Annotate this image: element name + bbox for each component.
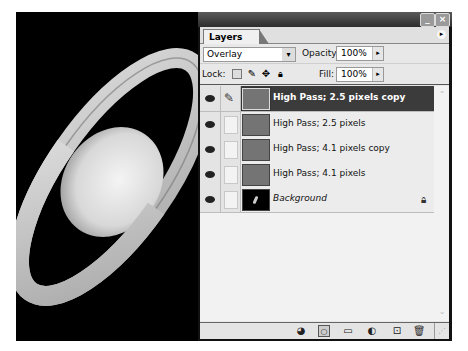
tab-row: Layers ▸	[200, 27, 449, 44]
layer-link-cell[interactable]	[221, 137, 241, 162]
adjustment-layer-icon[interactable]: ◐	[366, 325, 378, 337]
layer-row[interactable]: High Pass; 4.1 pixels	[200, 162, 434, 188]
lock-label: Lock:	[202, 69, 226, 79]
add-mask-icon[interactable]: ○	[318, 325, 330, 337]
layer-thumbnail[interactable]	[242, 88, 270, 110]
new-layer-icon[interactable]: ⊡	[391, 325, 403, 337]
lock-all-icon[interactable]: 🔒︎	[275, 69, 285, 79]
layer-name[interactable]: High Pass; 4.1 pixels	[273, 168, 366, 178]
opacity-value: 100%	[341, 48, 367, 58]
panel-menu-icon[interactable]: ▸	[437, 30, 446, 39]
lock-move-icon[interactable]: ✥	[261, 69, 271, 79]
minimize-button[interactable]: _	[420, 13, 435, 27]
layer-thumbnail[interactable]	[242, 164, 270, 186]
layer-row[interactable]: ✎ High Pass; 2.5 pixels copy	[200, 86, 434, 112]
layer-row[interactable]: High Pass; 4.1 pixels copy	[200, 137, 434, 163]
layer-name[interactable]: High Pass; 2.5 pixels copy	[273, 92, 405, 102]
layer-row[interactable]: Background 🔒︎	[200, 187, 434, 213]
visibility-eye-icon[interactable]	[200, 112, 221, 137]
lock-fill-row: Lock: ✎ ✥ 🔒︎ Fill: 100% ▸	[200, 64, 449, 85]
trash-icon[interactable]: 🗑︎	[413, 325, 425, 337]
visibility-eye-icon[interactable]	[200, 187, 221, 212]
blend-mode-select[interactable]: Overlay ▾	[203, 47, 296, 62]
layer-style-icon[interactable]: ◕	[295, 325, 307, 337]
layers-list: ✎ High Pass; 2.5 pixels copy High Pass; …	[200, 86, 449, 321]
chevron-down-icon[interactable]: ▾	[282, 48, 295, 61]
opacity-label: Opacity:	[302, 48, 339, 58]
tab-layers[interactable]: Layers	[203, 29, 260, 44]
new-group-folder-icon[interactable]: ▭	[342, 325, 354, 337]
layer-row[interactable]: High Pass; 2.5 pixels	[200, 112, 434, 138]
opacity-field[interactable]: 100% ▸	[336, 46, 384, 61]
layer-name[interactable]: Background	[273, 193, 327, 203]
layer-link-cell[interactable]	[221, 112, 241, 137]
lock-transparent-icon[interactable]	[232, 69, 242, 79]
visibility-eye-icon[interactable]	[200, 162, 221, 187]
layer-link-cell[interactable]	[221, 162, 241, 187]
blend-mode-value: Overlay	[207, 49, 242, 59]
blend-opacity-row: Overlay ▾ Opacity: 100% ▸	[200, 44, 449, 64]
panel-body: Layers ▸ Overlay ▾ Opacity: 100% ▸ Lock:…	[200, 27, 449, 338]
resize-grip-icon[interactable]: ⋰	[434, 323, 449, 339]
scroll-up-icon[interactable]: ⌃	[437, 90, 447, 100]
layer-thumbnail[interactable]	[242, 189, 270, 211]
layer-lock-icon: 🔒︎	[421, 194, 426, 206]
opacity-slider-arrow-icon[interactable]: ▸	[372, 47, 383, 60]
layer-name[interactable]: High Pass; 2.5 pixels	[273, 118, 366, 128]
lock-brush-icon[interactable]: ✎	[247, 69, 257, 79]
layers-scrollbar[interactable]: ⌃ ⌄	[435, 86, 449, 321]
layers-panel: _ × Layers ▸ Overlay ▾ Opacity: 100% ▸ L…	[198, 12, 452, 341]
layer-link-cell[interactable]: ✎	[221, 86, 241, 111]
scroll-down-icon[interactable]: ⌄	[437, 307, 447, 317]
layer-name[interactable]: High Pass; 4.1 pixels copy	[273, 143, 390, 153]
layer-thumbnail[interactable]	[242, 139, 270, 161]
fill-value: 100%	[341, 69, 367, 79]
close-button[interactable]: ×	[435, 13, 450, 27]
document-canvas[interactable]	[16, 12, 200, 341]
layer-thumbnail[interactable]	[242, 114, 270, 136]
visibility-eye-icon[interactable]	[200, 137, 221, 162]
layer-link-cell[interactable]	[221, 187, 241, 212]
fill-label: Fill:	[319, 69, 334, 79]
paintbrush-icon: ✎	[224, 91, 234, 105]
fill-field[interactable]: 100% ▸	[336, 67, 384, 82]
fill-slider-arrow-icon[interactable]: ▸	[372, 68, 383, 81]
visibility-eye-icon[interactable]	[200, 86, 221, 111]
layers-bottom-toolbar: ◕ ○ ▭ ◐ ⊡ 🗑︎ ⋰	[200, 322, 449, 339]
panel-titlebar[interactable]: _ ×	[198, 12, 452, 27]
saturn-image	[16, 12, 200, 341]
